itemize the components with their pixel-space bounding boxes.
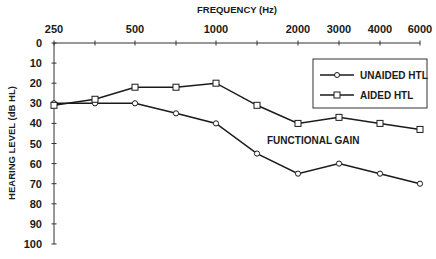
y-tick-label: 90	[30, 218, 42, 230]
legend: UNAIDED HTL AIDED HTL	[313, 59, 428, 108]
x-tick-label: 1000	[204, 23, 228, 35]
y-tick-label: 10	[30, 57, 42, 69]
square-marker-icon	[295, 120, 301, 126]
legend-unaided: UNAIDED HTL	[360, 70, 428, 81]
y-tick-label: 0	[36, 37, 42, 49]
circle-marker-icon	[254, 151, 259, 156]
y-tick-label: 40	[30, 117, 42, 129]
x-tick-label: 250	[45, 23, 63, 35]
y-tick-label: 80	[30, 198, 42, 210]
x-tick-label: 500	[126, 23, 144, 35]
x-tick-label: 4000	[368, 23, 392, 35]
square-marker-icon	[51, 102, 57, 108]
y-axis-title: HEARING LEVEL (dB HL)	[6, 86, 17, 200]
square-marker-icon	[254, 102, 260, 108]
circle-marker-icon	[336, 161, 341, 166]
x-tick-labels: 25050010002000300040006000	[45, 23, 432, 35]
square-marker-icon	[336, 114, 342, 120]
x-tick-label: 3000	[327, 23, 351, 35]
y-tick-label: 100	[24, 238, 42, 250]
y-tick-label: 70	[30, 178, 42, 190]
circle-marker-icon	[417, 181, 422, 186]
square-marker-icon	[132, 84, 138, 90]
x-tick-label: 6000	[408, 23, 432, 35]
circle-marker-icon	[132, 101, 137, 106]
square-marker-icon	[417, 126, 423, 132]
functional-gain-annotation: FUNCTIONAL GAIN	[267, 135, 360, 146]
circle-marker-icon	[213, 121, 218, 126]
square-marker-icon	[334, 92, 340, 98]
legend-aided: AIDED HTL	[360, 90, 413, 101]
square-marker-icon	[173, 84, 179, 90]
x-axis-title: FREQUENCY (Hz)	[197, 4, 277, 15]
square-marker-icon	[377, 120, 383, 126]
y-tick-label: 30	[30, 97, 42, 109]
circle-marker-icon	[173, 111, 178, 116]
series-line	[54, 103, 420, 183]
circle-marker-icon	[295, 171, 300, 176]
x-tick-label: 2000	[286, 23, 310, 35]
y-tick-labels: 0102030405060708090100	[24, 37, 42, 250]
y-tick-label: 60	[30, 158, 42, 170]
circle-marker-icon	[335, 73, 340, 78]
square-marker-icon	[92, 96, 98, 102]
square-marker-icon	[213, 80, 219, 86]
audiogram-chart: FREQUENCY (Hz) 2505001000200030004000600…	[0, 0, 436, 259]
y-tick-label: 50	[30, 138, 42, 150]
y-tick-label: 20	[30, 77, 42, 89]
circle-marker-icon	[377, 171, 382, 176]
